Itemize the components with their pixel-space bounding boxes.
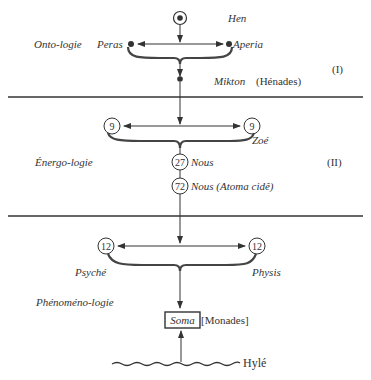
node-12-right: 12 [249, 238, 265, 254]
phenomeno-logie-label: Phénoméno-logie [35, 296, 114, 308]
svg-text:12: 12 [101, 241, 111, 252]
roman-numeral-2: (II) [327, 156, 342, 169]
monades-label: [Monades] [201, 314, 249, 326]
hyle-label: Hylé [243, 356, 266, 370]
svg-text:12: 12 [252, 241, 262, 252]
section-3: 12 12 Psyché Physis Phénoméno-logie Soma… [35, 216, 281, 370]
aperia-dot-icon [226, 41, 232, 47]
node-12-left: 12 [98, 238, 114, 254]
brace-2 [108, 133, 254, 148]
aperia-label: Aperia [232, 38, 263, 50]
section-2: 9 9 Zoé 27 Nous Énergo-logie (II) 72 Nou… [34, 97, 342, 216]
henades-label: (Hénades) [256, 75, 302, 88]
brace-3 [108, 254, 256, 271]
roman-numeral-1: (I) [332, 63, 343, 76]
hyle-wavy-line-icon [112, 362, 240, 365]
peras-label: Peras [96, 38, 123, 50]
node-27: 27 [172, 154, 188, 170]
node-9-right: 9 [244, 118, 260, 134]
soma-label: Soma [170, 314, 195, 326]
hen-label: Hen [227, 12, 247, 24]
svg-text:72: 72 [175, 181, 185, 192]
peras-dot-icon [128, 41, 134, 47]
hen-circled-dot-icon [174, 12, 187, 25]
mikton-dot-icon [177, 76, 183, 82]
mikton-label: Mikton [213, 75, 246, 87]
nous-label: Nous [190, 156, 214, 168]
node-9-left: 9 [104, 118, 120, 134]
henology-diagram: Hen Onto-logie Peras Aperia Mikton (Héna… [0, 0, 371, 380]
onto-logie-label: Onto-logie [34, 38, 82, 50]
brace-1 [128, 47, 232, 64]
nous-atoma-label: Nous (Atoma cidê) [190, 180, 274, 193]
svg-text:9: 9 [110, 121, 115, 132]
section-1: Hen Onto-logie Peras Aperia Mikton (Héna… [34, 12, 343, 98]
node-72: 72 [172, 178, 188, 194]
psyche-label: Psyché [74, 266, 107, 278]
svg-text:27: 27 [175, 157, 185, 168]
zoe-label: Zoé [252, 134, 270, 146]
energo-logie-label: Énergo-logie [34, 156, 93, 168]
svg-text:9: 9 [250, 121, 255, 132]
physis-label: Physis [251, 266, 281, 278]
